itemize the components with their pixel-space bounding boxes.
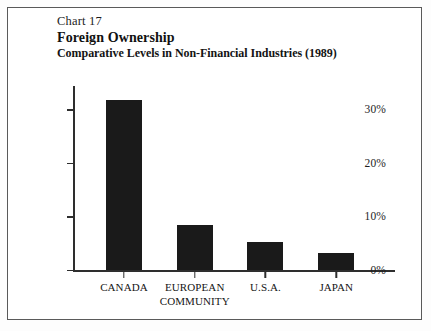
y-axis-tick-label: 10%: [365, 210, 386, 222]
plot-area: 0%10%20%30% CANADAEUROPEAN COMMUNITYU.S.…: [73, 88, 395, 270]
y-axis-tick: [67, 270, 73, 271]
y-axis-tick: [67, 109, 73, 110]
bar: [106, 100, 142, 270]
x-axis-category-label: JAPAN: [319, 281, 353, 295]
chart-title: Foreign Ownership: [57, 29, 397, 46]
x-axis-tick: [194, 270, 195, 278]
x-axis-category-label: U.S.A.: [250, 281, 281, 295]
y-axis-tick: [67, 163, 73, 164]
y-axis-tick-label: 20%: [365, 157, 386, 169]
x-axis-category-label: EUROPEAN COMMUNITY: [160, 281, 230, 308]
bar: [247, 242, 283, 270]
chart-subtitle: Comparative Levels in Non-Financial Indu…: [57, 46, 397, 61]
x-axis-tick: [123, 270, 124, 278]
chart-number: Chart 17: [57, 14, 397, 29]
bar: [177, 225, 213, 271]
x-axis-category-label: CANADA: [100, 281, 148, 295]
y-axis-line: [73, 86, 75, 270]
y-axis-tick-label: 30%: [365, 103, 386, 115]
chart-header: Chart 17 Foreign Ownership Comparative L…: [57, 14, 397, 61]
x-axis-line: [73, 270, 395, 272]
y-axis-tick-label: 0%: [370, 264, 386, 276]
bar: [318, 253, 354, 270]
y-axis-tick: [67, 216, 73, 217]
chart-figure: Chart 17 Foreign Ownership Comparative L…: [0, 0, 431, 331]
x-axis-tick: [265, 270, 266, 278]
x-axis-tick: [336, 270, 337, 278]
